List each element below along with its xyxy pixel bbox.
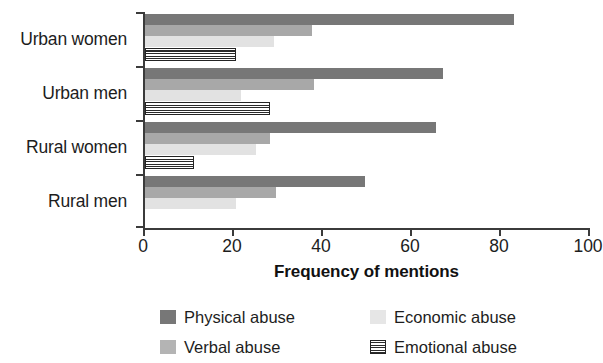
legend-swatch-verbal-icon	[160, 340, 176, 354]
x-axis-line	[143, 228, 590, 230]
y-axis-tick	[136, 120, 143, 122]
legend-swatch-economic-icon	[370, 310, 386, 324]
x-axis-tick-label: 0	[138, 236, 148, 257]
x-axis-tick-label: 20	[222, 236, 241, 257]
plot-area: Urban women Urban men Rural women Rural …	[0, 0, 596, 245]
bar-emotional-urban-women	[145, 48, 236, 61]
y-axis-label-urban-men: Urban men	[0, 66, 134, 120]
x-axis-title: Frequency of mentions	[143, 262, 590, 282]
y-axis-tick	[136, 226, 143, 228]
x-axis-tick	[588, 228, 590, 236]
legend-swatch-physical-icon	[160, 310, 176, 324]
bar-physical-urban-men	[145, 68, 443, 79]
y-axis-category-labels: Urban women Urban men Rural women Rural …	[0, 12, 134, 228]
bar-verbal-urban-women	[145, 25, 312, 36]
y-axis-label-urban-women: Urban women	[0, 12, 134, 66]
x-axis-tick-labels: 020406080100	[0, 236, 596, 262]
y-axis-tick	[136, 174, 143, 176]
x-axis-tick-label: 60	[400, 236, 419, 257]
legend-label-verbal-abuse: Verbal abuse	[184, 338, 280, 357]
y-axis-tick	[136, 66, 143, 68]
bar-physical-rural-women	[145, 122, 436, 133]
bar-verbal-urban-men	[145, 79, 314, 90]
bar-verbal-rural-men	[145, 187, 276, 198]
y-axis-label-rural-women: Rural women	[0, 120, 134, 174]
legend-label-physical-abuse: Physical abuse	[184, 308, 295, 327]
x-axis-tick-label: 40	[311, 236, 330, 257]
bar-group-rural-men	[145, 174, 596, 228]
bar-economic-rural-women	[145, 144, 256, 155]
bar-group-rural-women	[145, 120, 596, 174]
x-axis-tick	[499, 228, 501, 236]
bar-group-urban-men	[145, 66, 596, 120]
legend-label-economic-abuse: Economic abuse	[394, 308, 516, 327]
legend-label-emotional-abuse: Emotional abuse	[394, 338, 517, 357]
x-axis-tick	[232, 228, 234, 236]
y-axis-tick	[136, 12, 143, 14]
legend-item-physical-abuse: Physical abuse	[160, 308, 360, 327]
legend-item-emotional-abuse: Emotional abuse	[360, 338, 596, 357]
legend-item-economic-abuse: Economic abuse	[360, 308, 596, 327]
bar-economic-urban-women	[145, 36, 274, 47]
chart-legend: Physical abuse Economic abuse Verbal abu…	[160, 302, 596, 362]
y-axis-label-rural-men: Rural men	[0, 174, 134, 228]
x-axis-tick	[410, 228, 412, 236]
bar-economic-rural-men	[145, 198, 236, 209]
x-axis-tick	[143, 228, 145, 236]
bar-group-urban-women	[145, 12, 596, 66]
bar-economic-urban-men	[145, 90, 241, 101]
x-axis-tick-label: 100	[573, 236, 602, 257]
bar-emotional-urban-men	[145, 102, 270, 115]
bar-verbal-rural-women	[145, 133, 270, 144]
x-axis-tick-label: 80	[489, 236, 508, 257]
legend-item-verbal-abuse: Verbal abuse	[160, 338, 360, 357]
bar-physical-rural-men	[145, 176, 365, 187]
x-axis-tick	[321, 228, 323, 236]
legend-swatch-emotional-icon	[370, 340, 386, 354]
bar-physical-urban-women	[145, 14, 514, 25]
bar-emotional-rural-women	[145, 156, 194, 169]
bars-region	[145, 12, 596, 228]
